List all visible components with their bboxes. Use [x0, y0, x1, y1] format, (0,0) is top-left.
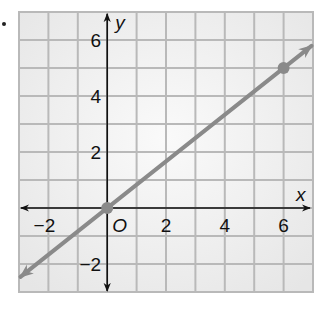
x-tick-label: 6: [278, 215, 289, 236]
y-tick-label: 2: [91, 142, 102, 163]
data-point: [278, 62, 290, 74]
y-tick-label: −2: [80, 254, 102, 275]
item-bullet: [2, 22, 6, 26]
x-axis-label: x: [295, 184, 307, 205]
y-tick-label: 6: [91, 30, 102, 51]
data-point: [101, 202, 113, 214]
coordinate-plane: −2246−2246 x y O: [0, 0, 324, 314]
y-axis-label: y: [113, 12, 126, 33]
origin-label: O: [112, 215, 127, 236]
x-tick-label: 2: [161, 215, 172, 236]
y-tick-label: 4: [91, 86, 102, 107]
x-tick-label: −2: [34, 215, 56, 236]
coordinate-plane-figure: −2246−2246 x y O: [0, 0, 324, 314]
x-tick-label: 4: [220, 215, 231, 236]
